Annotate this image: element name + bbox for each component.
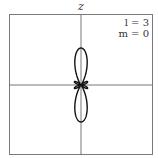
l-parameter: l = 3 — [125, 17, 149, 28]
m-parameter: m = 0 — [118, 28, 149, 39]
z-axis-label: z — [77, 0, 84, 13]
orbital-diagram: z l = 3 m = 0 — [0, 0, 158, 158]
